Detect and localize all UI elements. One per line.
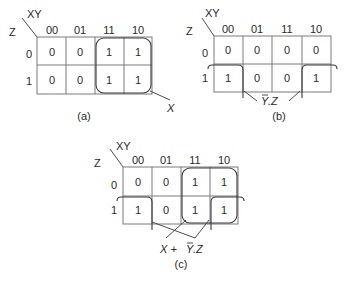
col-header: 10 (132, 24, 144, 36)
karnaugh-maps-figure: XY Z 00 01 11 10 0 1 0 0 1 1 0 0 1 1 X (… (0, 0, 350, 291)
group-label: .Z (268, 95, 279, 107)
cell: 0 (313, 44, 319, 56)
caption: (a) (77, 110, 90, 122)
corner-diagonal (22, 18, 37, 37)
cell: 0 (163, 204, 169, 216)
leader-line (166, 220, 186, 238)
cell: 1 (135, 204, 141, 216)
expression-rest: .Z (193, 243, 204, 255)
cell: 1 (221, 176, 227, 188)
expression-prefix: X + (159, 243, 177, 255)
group-loop-yz-right (211, 197, 244, 230)
col-header: 01 (160, 154, 172, 166)
group-loop-yz-right (302, 65, 337, 98)
cell: 1 (313, 72, 319, 84)
col-var-label: XY (27, 8, 42, 20)
col-header: 11 (103, 24, 114, 36)
col-header: 01 (251, 23, 263, 35)
row-var-label: Z (94, 157, 101, 169)
cell: 1 (106, 74, 112, 86)
cell: 0 (284, 44, 290, 56)
row-var-label: Z (186, 25, 193, 37)
col-var-label: XY (205, 7, 220, 19)
cell: 0 (49, 74, 55, 86)
leader-line (150, 91, 170, 100)
group-label: X (166, 102, 175, 114)
cell: 0 (254, 72, 260, 84)
cell: 0 (225, 44, 231, 56)
kmap-c: XY Z 00 01 11 10 0 1 0 0 1 1 1 0 1 1 X +… (94, 140, 244, 270)
col-header: 10 (310, 23, 322, 35)
col-header: 01 (74, 24, 86, 36)
col-header: 11 (189, 154, 200, 166)
cell: 0 (254, 44, 260, 56)
cell: 0 (77, 46, 83, 58)
col-var-label: XY (116, 140, 131, 152)
cell: 1 (192, 204, 198, 216)
col-header: 11 (281, 23, 292, 35)
cell: 1 (225, 72, 231, 84)
cell: 0 (284, 72, 290, 84)
caption: (c) (175, 258, 188, 270)
cell: 1 (221, 204, 227, 216)
kmap-b: XY Z 00 01 11 10 0 1 0 0 0 0 1 0 0 1 Y .… (186, 7, 337, 122)
row-header: 1 (26, 75, 32, 87)
col-header: 00 (46, 24, 58, 36)
kmap-a: XY Z 00 01 11 10 0 1 0 0 1 1 0 0 1 1 X (… (9, 8, 175, 122)
cell: 0 (163, 176, 169, 188)
cell: 1 (192, 176, 198, 188)
row-header: 0 (202, 47, 208, 59)
col-header: 10 (218, 154, 230, 166)
col-header: 00 (132, 154, 144, 166)
row-header: 0 (111, 179, 117, 191)
row-header: 1 (111, 204, 117, 216)
cell: 0 (77, 74, 83, 86)
cell: 1 (135, 74, 141, 86)
row-header: 0 (26, 48, 32, 60)
cell: 0 (135, 176, 141, 188)
row-header: 1 (202, 72, 208, 84)
cell: 1 (135, 46, 141, 58)
row-var-label: Z (9, 26, 16, 38)
caption: (b) (272, 110, 285, 122)
corner-diagonal (202, 18, 214, 36)
cell: 0 (49, 46, 55, 58)
col-header: 00 (222, 23, 234, 35)
cell: 1 (106, 46, 112, 58)
